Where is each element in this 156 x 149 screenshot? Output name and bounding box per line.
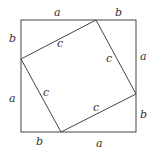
label-right-b: b — [140, 108, 147, 121]
label-left-b: b — [9, 32, 16, 45]
label-c-right: c — [106, 52, 112, 65]
label-top-a: a — [54, 6, 61, 19]
label-right-a: a — [140, 50, 147, 63]
label-c-bottom: c — [93, 101, 99, 114]
label-c-left: c — [43, 86, 49, 99]
label-bottom-a: a — [96, 137, 103, 149]
label-c-top: c — [57, 37, 63, 50]
label-left-a: a — [9, 92, 16, 105]
pythagorean-diagram: a b b a a b b a c c c c — [0, 0, 156, 149]
outer-square — [21, 20, 136, 132]
inner-square — [21, 20, 136, 132]
label-top-b: b — [115, 6, 122, 19]
label-bottom-b: b — [36, 135, 43, 148]
